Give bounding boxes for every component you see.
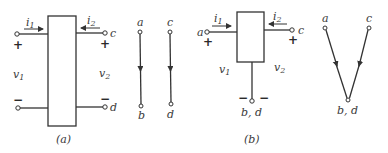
graph-b-edge-c-upper bbox=[359, 30, 368, 66]
terminal-bd-node bbox=[250, 99, 254, 103]
terminal-a-node bbox=[15, 32, 19, 36]
graph-node-c bbox=[168, 30, 172, 34]
graph-a: a b c d bbox=[137, 16, 174, 122]
two-port-b: a c b, d i1 i2 + + − − v1 v2 (b) bbox=[197, 10, 304, 146]
graph-node-b bbox=[139, 104, 143, 108]
two-port-box-a bbox=[48, 16, 76, 126]
current-label-i2-b: i2 bbox=[273, 10, 282, 24]
two-port-box-b bbox=[237, 12, 264, 62]
node-label-c: c bbox=[167, 16, 173, 29]
minus-sign-b-right: − bbox=[259, 91, 269, 105]
voltage-label-v1: v1 bbox=[13, 68, 24, 82]
current-label-i1: i1 bbox=[26, 16, 35, 30]
voltage-label-v2-b: v2 bbox=[274, 61, 285, 75]
graph-b-node-c bbox=[367, 26, 371, 30]
two-port-a: i1 i2 + − + − v1 v2 c d (a) bbox=[13, 14, 117, 146]
node-label-c-b: c bbox=[366, 12, 372, 25]
terminal-label-c-b: c bbox=[298, 24, 304, 37]
current-label-i1-b: i1 bbox=[214, 12, 223, 26]
minus-sign-port2: − bbox=[100, 92, 110, 106]
terminal-a-node-b bbox=[205, 30, 209, 34]
plus-sign-b-right: + bbox=[288, 33, 298, 47]
graph-b-edge-a-lower bbox=[336, 64, 347, 98]
graph-edge-cd-lower bbox=[171, 70, 172, 102]
graph-b-edge-a-upper bbox=[326, 30, 337, 66]
terminal-label-c: c bbox=[110, 27, 116, 40]
voltage-label-v1-b: v1 bbox=[219, 63, 230, 77]
terminal-c-node bbox=[103, 31, 107, 35]
plus-sign-port1: + bbox=[13, 38, 23, 52]
graph-b: a c b, d bbox=[322, 12, 372, 117]
node-label-a: a bbox=[137, 16, 144, 29]
terminal-label-d: d bbox=[110, 101, 117, 114]
caption-b: (b) bbox=[244, 133, 260, 146]
graph-edge-ab-lower bbox=[141, 70, 142, 104]
voltage-label-v2: v2 bbox=[99, 67, 110, 81]
node-label-d: d bbox=[167, 108, 174, 121]
terminal-c-node-b bbox=[290, 28, 294, 32]
graph-edge-cd-upper bbox=[170, 34, 171, 71]
plus-sign-port2: + bbox=[100, 37, 110, 51]
graph-node-d bbox=[169, 102, 173, 106]
graph-b-edge-c-lower bbox=[350, 64, 360, 98]
graph-b-node-bd bbox=[346, 98, 350, 102]
two-port-diagram: i1 i2 + − + − v1 v2 c d (a) a b c d a bbox=[0, 0, 388, 153]
minus-sign-port1: − bbox=[13, 93, 23, 107]
caption-a: (a) bbox=[56, 133, 71, 146]
graph-node-a bbox=[138, 30, 142, 34]
node-label-b: b bbox=[138, 109, 145, 122]
graph-edge-ab-upper bbox=[140, 34, 141, 71]
graph-b-node-a bbox=[323, 26, 327, 30]
terminal-label-bd: b, d bbox=[241, 106, 262, 119]
plus-sign-b-left: + bbox=[203, 35, 213, 49]
node-label-bd-b: b, d bbox=[337, 104, 358, 117]
current-label-i2: i2 bbox=[87, 14, 96, 28]
minus-sign-b-left: − bbox=[238, 91, 248, 105]
node-label-a-b: a bbox=[322, 12, 329, 25]
